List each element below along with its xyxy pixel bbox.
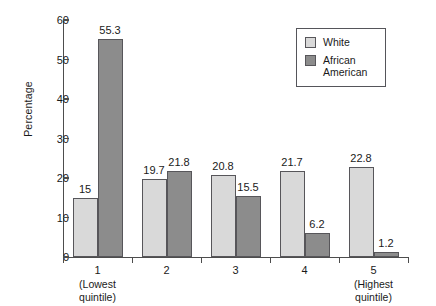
bar (167, 171, 192, 257)
bar-value-label: 19.7 (143, 164, 164, 176)
bar (236, 196, 261, 257)
bar (73, 198, 98, 257)
x-axis-tick-mark (270, 257, 271, 263)
legend-item-white: White (305, 36, 377, 48)
bar-value-label: 15.5 (237, 181, 258, 193)
bar (349, 167, 374, 257)
x-axis-tick-mark (408, 257, 409, 263)
x-axis-group-label: 4 (270, 264, 339, 278)
x-axis-tick-mark (63, 257, 64, 263)
x-axis-group-number: 3 (232, 264, 238, 276)
x-axis-tick-mark (132, 257, 133, 263)
bar-value-label: 55.3 (99, 24, 120, 36)
bar (98, 39, 123, 257)
bar-value-label: 20.8 (212, 160, 233, 172)
legend-label-african-american: African American (323, 54, 377, 78)
legend-label-white: White (323, 36, 350, 48)
bar-chart-figure: Percentage 0102030405060 1555.319.721.82… (0, 0, 436, 306)
bar-value-label: 1.2 (378, 237, 393, 249)
bar-value-label: 22.8 (350, 152, 371, 164)
x-axis-group-number: 1 (94, 264, 100, 276)
x-axis-group-label: 2 (132, 264, 201, 278)
x-axis-group-sublabel: (Highestquintile) (339, 278, 408, 305)
legend: White African American (296, 28, 386, 87)
bar (142, 179, 167, 257)
bar (211, 175, 236, 257)
bar-value-label: 21.7 (281, 156, 302, 168)
x-axis-group-label: 3 (201, 264, 270, 278)
bar (280, 171, 305, 257)
bar-value-label: 21.8 (168, 156, 189, 168)
bar (305, 233, 330, 257)
x-axis-group-number: 5 (370, 264, 376, 276)
x-axis-group-label: 1(Lowestquintile) (63, 264, 132, 305)
legend-item-african-american: African American (305, 54, 377, 78)
bar-value-label: 15 (79, 183, 91, 195)
x-axis-group-sublabel: (Lowestquintile) (63, 278, 132, 305)
x-axis-group-number: 2 (163, 264, 169, 276)
x-axis-tick-mark (339, 257, 340, 263)
legend-swatch-white-icon (305, 37, 316, 48)
x-axis-line (63, 257, 408, 258)
x-axis-group-number: 4 (301, 264, 307, 276)
bar-value-label: 6.2 (309, 218, 324, 230)
x-axis-group-label: 5(Highestquintile) (339, 264, 408, 305)
x-axis-tick-mark (201, 257, 202, 263)
legend-swatch-african-american-icon (305, 55, 316, 66)
